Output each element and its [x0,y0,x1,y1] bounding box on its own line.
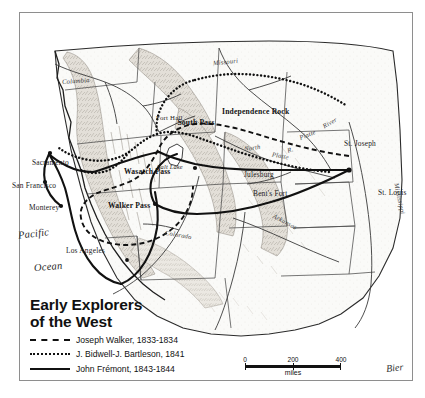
dashed-line-icon [30,335,70,345]
city-label-sacramento: Sacramento [32,158,69,167]
city-label-san-francisco: San Francisco [12,181,56,190]
city-label-st-louis: St. Louis [378,189,406,197]
legend-entry-walker-label: Joseph Walker, 1833-1834 [76,335,178,345]
city-label-fort-hall: Fort Hall [156,114,183,121]
city-label-st-joseph: St. Joseph [343,140,377,148]
scale-bar: 0 200 400 miles [245,356,341,376]
landmark-label-walker-pass: Walker Pass [108,202,148,210]
scale-tick-0: 0 [243,356,247,363]
dotted-line-icon [30,349,70,359]
scale-tick-400: 400 [335,356,346,363]
legend-entry-bidwell-bartleson: J. Bidwell-J. Bartleson, 1841 [30,349,184,359]
legend-title-line1: Early Explorers [30,296,142,313]
cartographer-signature: Bier [385,361,403,374]
map-legend: Early Explorers of the West Joseph Walke… [30,296,184,374]
city-label-bents-fort: Bent's Fort [253,189,288,198]
scale-tick-200: 200 [287,356,298,363]
map-figure: Columbia Missouri North Platte Platte Ri… [0,0,425,398]
scale-unit-label: miles [245,369,341,376]
legend-title-line2: of the West [30,313,184,330]
landmark-label-independence-rock: Independence Rock [222,108,282,116]
legend-title: Early Explorers of the West [30,296,184,330]
city-label-monterey: Monterey [29,203,59,212]
legend-entry-walker: Joseph Walker, 1833-1834 [30,335,184,345]
city-label-julesburg: Julesburg [244,170,274,179]
scale-bar-line [245,365,341,368]
legend-entry-fremont: John Frémont, 1843-1844 [30,364,184,374]
city-label-los-angeles: Los Angeles [66,246,105,255]
legend-entry-bidwell-bartleson-label: J. Bidwell-J. Bartleson, 1841 [76,349,184,359]
legend-entry-fremont-label: John Frémont, 1843-1844 [76,364,175,374]
solid-line-icon [30,364,70,374]
landmark-label-salt-lake: Salt Lake [157,163,183,171]
